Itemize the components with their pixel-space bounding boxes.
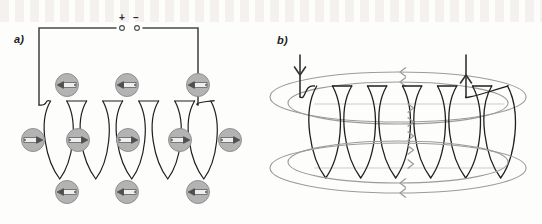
coil-b-turn — [379, 86, 411, 178]
field-line-arrowhead-inner — [408, 104, 414, 112]
field-line-ellipse — [288, 82, 508, 124]
field-line-arrowhead-inner — [408, 146, 414, 154]
coil-b-turn — [309, 86, 341, 178]
field-line-arrowhead-inner — [408, 132, 414, 140]
field-line-ellipse — [288, 141, 508, 183]
panel-b-diagram — [0, 0, 542, 224]
physics-figure-solenoid-magnetic-field: a) + – b) — [0, 0, 542, 224]
lead-wires-group — [295, 55, 472, 97]
coil-b-turn — [414, 86, 446, 178]
coil-b-turn — [344, 86, 376, 178]
coil-b-turn — [449, 86, 481, 178]
field-line-arrowhead-inner — [408, 160, 414, 168]
coil-b-turn — [484, 86, 516, 178]
